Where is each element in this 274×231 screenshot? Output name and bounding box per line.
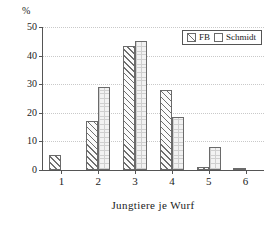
bar-fb-4 xyxy=(160,90,172,170)
bar-fb-1 xyxy=(49,155,61,170)
x-axis-tick-label: 5 xyxy=(206,176,212,187)
legend-label-schmidt: Schmidt xyxy=(226,33,256,42)
x-axis-tick-label: 3 xyxy=(132,176,138,187)
y-axis-tick-label: 50 xyxy=(27,22,37,32)
x-axis-tick-label: 4 xyxy=(169,176,175,187)
y-axis-unit-label: % xyxy=(22,6,30,16)
bar-fb-5 xyxy=(197,167,209,170)
legend-label-fb: FB xyxy=(199,33,210,42)
gridline xyxy=(43,84,264,85)
x-axis-tick xyxy=(98,170,99,174)
y-axis-tick xyxy=(39,56,43,57)
bar-schmidt-3 xyxy=(135,41,147,170)
x-axis-tick-label: 6 xyxy=(243,176,249,187)
legend-swatch-schmidt-icon xyxy=(214,33,223,42)
y-axis-tick-label: 40 xyxy=(27,51,37,61)
y-axis-tick-label: 20 xyxy=(27,108,37,118)
x-axis-tick xyxy=(209,170,210,174)
y-axis-tick xyxy=(39,141,43,142)
chart-legend: FB Schmidt xyxy=(182,30,262,45)
x-axis-title: Jungtiere je Wurf xyxy=(42,199,264,211)
y-axis-tick xyxy=(39,84,43,85)
x-axis-tick xyxy=(246,170,247,174)
bar-fb-2 xyxy=(86,121,98,170)
y-axis-tick xyxy=(39,27,43,28)
y-axis-tick-label: 10 xyxy=(27,136,37,146)
y-axis-tick xyxy=(39,170,43,171)
x-axis-tick-label: 1 xyxy=(59,176,65,187)
bar-chart: % 01020304050 123456 FB Schmidt Jungtier… xyxy=(0,0,274,231)
bar-schmidt-2 xyxy=(98,87,110,170)
gridline xyxy=(43,27,264,28)
x-axis-tick xyxy=(135,170,136,174)
x-axis-tick xyxy=(61,170,62,174)
legend-entry-schmidt: Schmidt xyxy=(214,33,256,42)
y-axis-tick xyxy=(39,113,43,114)
bar-schmidt-4 xyxy=(172,117,184,170)
gridline xyxy=(43,141,264,142)
gridline xyxy=(43,113,264,114)
legend-entry-fb: FB xyxy=(187,33,210,42)
x-axis-tick-label: 2 xyxy=(96,176,102,187)
y-axis-tick-label: 0 xyxy=(32,165,37,175)
bar-fb-3 xyxy=(123,46,135,170)
bar-schmidt-5 xyxy=(209,147,221,170)
bar-fb-6 xyxy=(233,168,245,170)
plot-area: 01020304050 123456 FB Schmidt xyxy=(42,27,264,171)
gridline xyxy=(43,56,264,57)
legend-swatch-fb-icon xyxy=(187,33,196,42)
x-axis-tick xyxy=(172,170,173,174)
y-axis-tick-label: 30 xyxy=(27,79,37,89)
